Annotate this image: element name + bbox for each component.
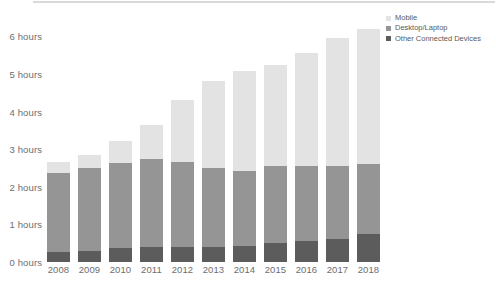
x-axis: 2008200920102011201220132014201520162017… [47, 264, 380, 280]
bar-segment[interactable] [357, 29, 380, 164]
bar-group[interactable] [264, 10, 287, 262]
bar-segment[interactable] [264, 166, 287, 243]
legend-label: Other Connected Devices [395, 35, 481, 43]
bar-segment[interactable] [233, 71, 256, 171]
bar-stack [295, 10, 318, 262]
chart-legend: MobileDesktop/LaptopOther Connected Devi… [386, 14, 494, 45]
x-axis-tick-label: 2008 [47, 264, 70, 280]
legend-swatch-icon [386, 16, 391, 21]
x-axis-tick-label: 2017 [326, 264, 349, 280]
bar-segment[interactable] [171, 162, 194, 247]
legend-swatch-icon [386, 36, 391, 41]
bar-segment[interactable] [202, 247, 225, 262]
x-axis-tick-label: 2014 [233, 264, 256, 280]
x-axis-tick-label: 2013 [202, 264, 225, 280]
bar-group[interactable] [78, 10, 101, 262]
bar-segment[interactable] [202, 81, 225, 168]
bar-stack [233, 10, 256, 262]
x-axis-tick-label: 2011 [140, 264, 163, 280]
bar-segment[interactable] [326, 166, 349, 239]
plot-area [47, 10, 380, 262]
y-axis: 0 hours1 hours2 hours3 hours4 hours5 hou… [0, 0, 47, 293]
bar-group[interactable] [171, 10, 194, 262]
bar-segment[interactable] [78, 168, 101, 251]
bar-segment[interactable] [140, 247, 163, 262]
bar-group[interactable] [140, 10, 163, 262]
bar-group[interactable] [295, 10, 318, 262]
bar-stack [140, 10, 163, 262]
bar-segment[interactable] [140, 159, 163, 247]
bar-segment[interactable] [357, 234, 380, 262]
bar-segment[interactable] [140, 125, 163, 159]
y-axis-tick-label: 0 hours [10, 257, 42, 268]
bar-stack [109, 10, 132, 262]
bar-segment[interactable] [47, 162, 70, 173]
x-axis-tick-label: 2010 [109, 264, 132, 280]
x-axis-tick-label: 2016 [295, 264, 318, 280]
x-axis-tick-label: 2018 [357, 264, 380, 280]
bar-segment[interactable] [295, 53, 318, 166]
chart-container: 0 hours1 hours2 hours3 hours4 hours5 hou… [0, 0, 496, 293]
bar-segment[interactable] [78, 155, 101, 168]
bar-segment[interactable] [78, 251, 101, 262]
bar-stack [357, 10, 380, 262]
x-axis-tick-label: 2009 [78, 264, 101, 280]
bar-segment[interactable] [47, 173, 70, 252]
bar-segment[interactable] [109, 141, 132, 164]
y-axis-tick-label: 6 hours [10, 31, 42, 42]
legend-item[interactable]: Mobile [386, 14, 494, 22]
bar-group[interactable] [357, 10, 380, 262]
bar-stack [47, 10, 70, 262]
bar-segment[interactable] [109, 248, 132, 262]
bar-group[interactable] [326, 10, 349, 262]
legend-label: Mobile [395, 14, 417, 22]
bar-segment[interactable] [109, 163, 132, 248]
bar-segment[interactable] [202, 168, 225, 247]
bar-stack [264, 10, 287, 262]
x-axis-tick-label: 2012 [171, 264, 194, 280]
legend-item[interactable]: Desktop/Laptop [386, 24, 494, 32]
bar-segment[interactable] [233, 246, 256, 262]
legend-swatch-icon [386, 26, 391, 31]
y-axis-tick-label: 3 hours [10, 144, 42, 155]
bar-group[interactable] [109, 10, 132, 262]
bar-group[interactable] [202, 10, 225, 262]
bar-segment[interactable] [326, 38, 349, 166]
bar-stack [326, 10, 349, 262]
y-axis-tick-label: 1 hours [10, 219, 42, 230]
bar-stack [78, 10, 101, 262]
bar-segment[interactable] [47, 252, 70, 262]
y-axis-tick-label: 4 hours [10, 106, 42, 117]
legend-item[interactable]: Other Connected Devices [386, 35, 494, 43]
bar-stack [202, 10, 225, 262]
top-divider-rule [33, 1, 495, 3]
y-axis-tick-label: 5 hours [10, 68, 42, 79]
bar-segment[interactable] [233, 171, 256, 246]
bar-segment[interactable] [326, 239, 349, 262]
y-axis-tick-label: 2 hours [10, 181, 42, 192]
bar-segment[interactable] [295, 241, 318, 262]
bar-segment[interactable] [295, 166, 318, 241]
bar-segment[interactable] [264, 243, 287, 262]
x-axis-tick-label: 2015 [264, 264, 287, 280]
legend-label: Desktop/Laptop [395, 24, 448, 32]
bar-segment[interactable] [171, 100, 194, 162]
bar-group[interactable] [47, 10, 70, 262]
bars-layer [47, 10, 380, 262]
bar-stack [171, 10, 194, 262]
bar-group[interactable] [233, 10, 256, 262]
bar-segment[interactable] [357, 164, 380, 234]
bar-segment[interactable] [264, 65, 287, 167]
bar-segment[interactable] [171, 247, 194, 262]
